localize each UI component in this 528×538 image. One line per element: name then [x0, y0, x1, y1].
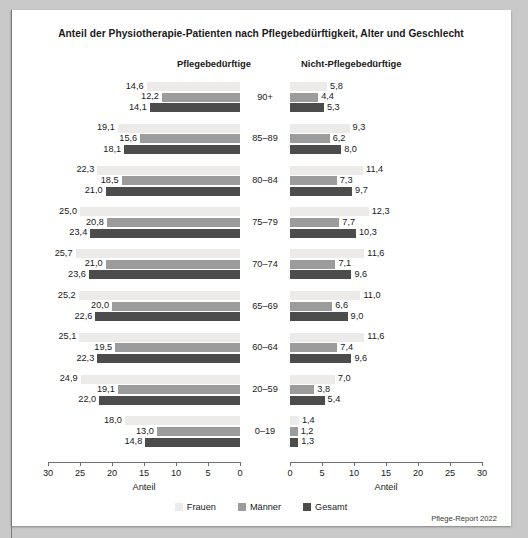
bar-group-right: 1,41,21,3	[290, 78, 482, 460]
axis-tick-label: 25	[75, 468, 85, 478]
axis-tick-label: 20	[413, 468, 423, 478]
axis-tick-label: 5	[205, 468, 210, 478]
axis-tick-label: 0	[237, 468, 242, 478]
bar-value-label: 1,4	[302, 416, 315, 425]
panel-header-left: Pflegebedürftige	[177, 58, 251, 69]
axis-tick	[176, 462, 177, 466]
bar-value-label: 14,8	[124, 437, 142, 446]
x-axis-label-right: Anteil	[290, 482, 482, 492]
age-group-label: 0‒19	[240, 426, 290, 436]
age-group-label: 65‒69	[240, 301, 290, 311]
axis-tick	[80, 462, 81, 466]
axis-tick	[112, 462, 113, 466]
legend-item[interactable]: Männer	[238, 502, 281, 512]
axis-tick-label: 10	[171, 468, 181, 478]
age-group-label: 85‒89	[240, 133, 290, 143]
legend-label: Frauen	[187, 502, 216, 512]
axis-tick-label: 15	[139, 468, 149, 478]
axis-tick-label: 30	[43, 468, 53, 478]
axis-tick-label: 10	[349, 468, 359, 478]
chart-card: Anteil der Physiotherapie-Patienten nach…	[11, 10, 511, 526]
axis-tick-label: 30	[477, 468, 487, 478]
age-group-label: 75‒79	[240, 217, 290, 227]
legend-swatch-icon	[175, 503, 183, 511]
bar-value-label: 13,0	[136, 427, 154, 436]
axis-tick-label: 15	[381, 468, 391, 478]
legend-label: Männer	[250, 502, 281, 512]
axis-tick-label: 0	[287, 468, 292, 478]
bar-m	[157, 427, 240, 436]
age-group-label: 80‒84	[240, 175, 290, 185]
axis-tick	[482, 462, 483, 466]
axis-tick	[240, 462, 241, 466]
bar-group-left: 18,013,014,8	[48, 78, 240, 460]
legend: FrauenMännerGesamt	[11, 502, 511, 512]
age-group-label: 20‒59	[240, 384, 290, 394]
bar-g	[290, 438, 298, 447]
bar-value-label: 18,0	[104, 416, 122, 425]
bar-value-label: 1,3	[301, 437, 314, 446]
legend-item[interactable]: Gesamt	[303, 502, 347, 512]
axis-tick	[450, 462, 451, 466]
age-group-label: 70‒74	[240, 259, 290, 269]
legend-item[interactable]: Frauen	[175, 502, 216, 512]
axis-tick	[322, 462, 323, 466]
axis-tick-label: 20	[107, 468, 117, 478]
axis-tick-label: 25	[445, 468, 455, 478]
legend-swatch-icon	[238, 503, 246, 511]
axis-tick	[144, 462, 145, 466]
source-note: Pflege-Report 2022	[431, 514, 497, 523]
bar-value-label: 1,2	[301, 427, 314, 436]
axis-tick	[290, 462, 291, 466]
bar-f	[125, 416, 240, 425]
axis-tick	[418, 462, 419, 466]
axis-tick-label: 5	[319, 468, 324, 478]
age-group-label: 90+	[240, 92, 290, 102]
panel-header-right: Nicht-Pflegebedürftige	[301, 58, 402, 69]
legend-swatch-icon	[303, 503, 311, 511]
axis-tick	[208, 462, 209, 466]
x-axis-label-left: Anteil	[48, 482, 240, 492]
axis-tick	[386, 462, 387, 466]
age-group-label: 60‒64	[240, 342, 290, 352]
bar-f	[290, 416, 299, 425]
bar-g	[145, 438, 240, 447]
chart-title: Anteil der Physiotherapie-Patienten nach…	[11, 28, 511, 39]
legend-label: Gesamt	[315, 502, 347, 512]
axis-tick	[48, 462, 49, 466]
bar-m	[290, 427, 298, 436]
axis-tick	[354, 462, 355, 466]
